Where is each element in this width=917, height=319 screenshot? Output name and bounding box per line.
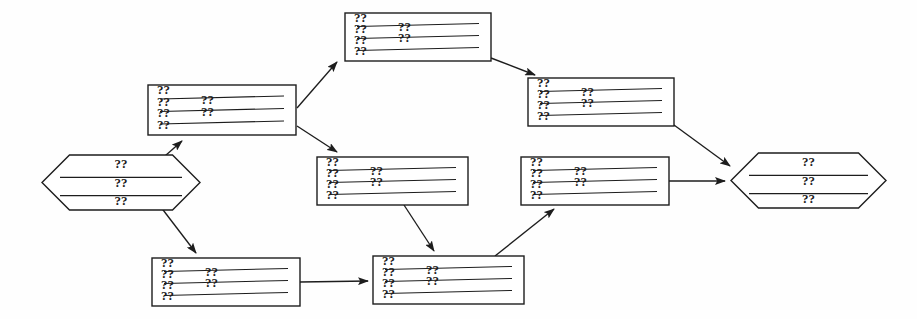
edge-g-h: [300, 281, 368, 282]
node-placeholder-text: ??: [574, 174, 587, 189]
node-placeholder-text: ??: [354, 43, 367, 58]
edge-b-c: [297, 62, 337, 108]
node-placeholder-text: ??: [161, 288, 174, 303]
node-placeholder-text: ??: [205, 275, 218, 290]
edge-e-h: [404, 205, 434, 251]
node-layer: ????????????????????????????????????????…: [42, 10, 886, 306]
node-end[interactable]: ??????: [731, 153, 886, 208]
node-b[interactable]: ????????????: [148, 82, 296, 135]
node-f[interactable]: ????????????: [521, 154, 669, 205]
node-d[interactable]: ????????????: [528, 75, 674, 126]
node-placeholder-text: ??: [426, 273, 439, 288]
node-placeholder-text: ??: [201, 104, 214, 119]
edge-d-end: [674, 125, 730, 166]
node-placeholder-text: ??: [115, 175, 128, 190]
node-placeholder-text: ??: [115, 193, 128, 208]
node-placeholder-text: ??: [537, 108, 550, 123]
node-placeholder-text: ??: [326, 187, 339, 202]
node-h[interactable]: ????????????: [373, 253, 524, 304]
node-placeholder-text: ??: [802, 154, 815, 169]
node-placeholder-text: ??: [398, 30, 411, 45]
diagram-canvas: ????????????????????????????????????????…: [0, 0, 917, 319]
edge-c-d: [491, 58, 535, 75]
edge-b-e: [297, 126, 337, 152]
node-placeholder-text: ??: [370, 174, 383, 189]
node-g[interactable]: ????????????: [152, 255, 300, 306]
flowchart-svg: ????????????????????????????????????????…: [0, 0, 917, 319]
node-placeholder-text: ??: [802, 173, 815, 188]
node-start[interactable]: ??????: [42, 155, 200, 210]
node-e[interactable]: ????????????: [317, 154, 468, 205]
node-placeholder-text: ??: [581, 95, 594, 110]
node-placeholder-text: ??: [115, 156, 128, 171]
node-placeholder-text: ??: [802, 191, 815, 206]
node-placeholder-text: ??: [382, 286, 395, 301]
node-c[interactable]: ????????????: [345, 10, 491, 61]
node-placeholder-text: ??: [530, 187, 543, 202]
node-placeholder-text: ??: [157, 117, 170, 132]
edge-h-f: [495, 209, 554, 256]
